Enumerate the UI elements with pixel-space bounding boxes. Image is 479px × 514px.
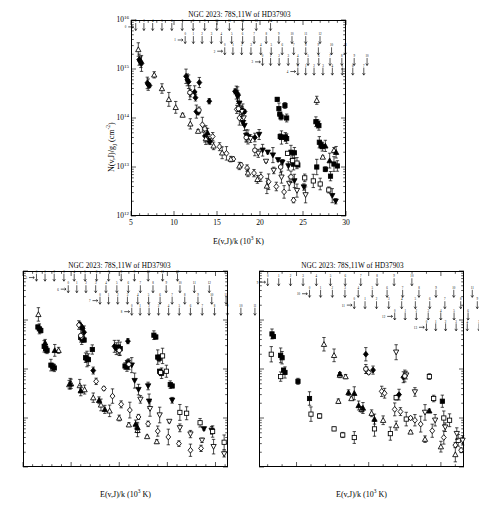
data-point-open-circle	[117, 348, 122, 353]
data-point-open-square	[327, 188, 331, 192]
data-point-filled-square	[52, 366, 56, 370]
ytick-label: 1016	[105, 16, 129, 23]
data-point-open-triangle-up	[369, 411, 374, 416]
ladder-J-label: 4	[105, 281, 107, 285]
ladder-J-label: 1	[44, 270, 46, 274]
data-point-open-triangle-down	[279, 175, 284, 180]
data-point-open-diamond	[274, 184, 279, 190]
ladder-J-label: 0	[426, 320, 428, 324]
vibrational-ladder-v7: 701234567891011	[89, 293, 228, 304]
panel-top: NGC 2023: 78S,11W of HD37903 02345678910…	[0, 0, 479, 252]
ladder-J-label: 6	[190, 304, 192, 308]
panel-top-title: NGC 2023: 78S,11W of HD37903	[0, 12, 479, 19]
data-point-open-triangle-up	[145, 434, 150, 439]
data-point-open-triangle-up	[336, 399, 341, 404]
ladder-J-label: 0	[184, 32, 186, 36]
data-point-open-circle	[244, 135, 249, 140]
data-point-open-triangle-up	[91, 395, 96, 400]
ladder-J-label: 2	[416, 309, 418, 313]
ladder-J-label: 7	[140, 281, 142, 285]
ladder-J-label: 0	[262, 54, 264, 58]
data-point-open-triangle-up	[117, 415, 122, 420]
ladder-J-label: 3	[211, 32, 213, 36]
panel-bottom-right-xlabel: E(v,J)/k (103 K)	[259, 491, 464, 499]
ladder-J-label: 3	[455, 320, 457, 324]
ladder-v-label: 10	[297, 292, 301, 296]
vibrational-ladder-v2: 201234567891011	[214, 43, 348, 54]
data-point-filled-square	[323, 167, 327, 171]
ladder-J-label: 5	[330, 274, 332, 278]
data-point-open-triangle-up	[159, 86, 164, 91]
vibrational-ladder-v13: 1301234567	[414, 320, 479, 331]
ladder-J-label: 11	[225, 293, 228, 297]
data-point-filled-diamond	[252, 135, 257, 141]
data-point-open-square	[447, 418, 451, 422]
ladder-J-label: 9	[204, 19, 206, 23]
ladder-J-label: 12	[208, 281, 212, 285]
ladder-J-label: 7	[444, 297, 446, 301]
ladder-J-label: 9	[197, 293, 199, 297]
ladder-J-label: 2	[148, 304, 150, 308]
data-point-open-triangle-up	[245, 170, 250, 175]
ladder-J-label: 2	[445, 320, 447, 324]
data-point-open-square	[164, 369, 168, 373]
data-point-open-circle	[127, 362, 132, 367]
ladder-J-label: 0	[267, 274, 269, 278]
data-point-filled-triangle-up	[337, 371, 342, 376]
ladder-J-label: 6	[171, 19, 173, 23]
data-series-group	[136, 43, 340, 204]
ladder-J-label: 7	[360, 274, 362, 278]
ladder-J-label: 2	[376, 297, 378, 301]
data-point-filled-triangle-up	[346, 390, 351, 395]
ladder-J-label: 3	[143, 19, 145, 23]
data-point-filled-triangle-up	[327, 158, 332, 163]
data-point-open-diamond	[127, 407, 132, 413]
ladder-J-label: 1	[404, 309, 406, 313]
ladder-J-label: 3	[127, 293, 129, 297]
series-open-triangle-up	[136, 43, 337, 194]
ladder-J-label: 10	[290, 32, 294, 36]
ladder-v-label: 8	[121, 310, 123, 314]
data-point-open-diamond	[188, 447, 193, 453]
series-open-diamond	[364, 367, 463, 453]
data-point-open-triangle-down	[157, 413, 162, 418]
data-point-open-circle	[278, 165, 283, 170]
data-point-open-triangle-up	[107, 408, 112, 413]
ladder-J-label: 11	[228, 19, 231, 23]
xtick-label: 10	[162, 219, 186, 227]
ladder-J-label: 8	[152, 281, 154, 285]
series-open-triangle-down	[394, 345, 466, 445]
data-point-filled-square	[277, 107, 281, 111]
data-point-open-square	[159, 370, 163, 374]
data-point-filled-square	[275, 97, 279, 101]
data-point-open-diamond	[146, 421, 151, 427]
ladder-v-label: 9	[257, 281, 259, 285]
ladder-v-label: 6	[57, 288, 59, 292]
data-point-filled-square	[280, 356, 284, 360]
ytick-label: 1013	[105, 163, 129, 170]
data-point-filled-triangle-down	[256, 132, 261, 137]
data-point-open-diamond	[199, 445, 204, 451]
xtick-label: 30	[334, 219, 358, 227]
data-point-open-triangle-up	[422, 437, 427, 442]
data-point-filled-square	[285, 116, 289, 120]
data-point-filled-diamond	[125, 338, 130, 344]
data-point-open-triangle-up	[180, 112, 185, 117]
xtick-label: 25	[291, 219, 315, 227]
data-point-filled-triangle-up	[356, 403, 361, 408]
ladder-v-label: 11	[342, 304, 345, 308]
ladder-J-label: 10	[410, 274, 414, 278]
data-point-open-square	[178, 410, 182, 414]
ladder-v-label: 7	[89, 299, 91, 303]
xtick-label: 5	[119, 219, 143, 227]
data-point-open-triangle-up	[321, 342, 326, 347]
data-point-open-triangle-down	[412, 390, 417, 395]
panel-bottom-right-title: NGC 2023: 78S,11W of HD37903	[245, 263, 460, 270]
ladder-J-label: 3	[322, 64, 324, 68]
data-point-open-triangle-down	[199, 438, 204, 443]
data-point-filled-square	[90, 347, 94, 351]
ladder-J-label: 1	[193, 32, 195, 36]
ladder-v-label: 3	[252, 60, 254, 64]
ladder-J-label: 0	[36, 270, 38, 274]
ladder-J-label: 2	[332, 286, 334, 290]
